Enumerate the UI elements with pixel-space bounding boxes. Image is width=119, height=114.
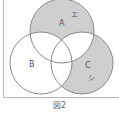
region-label-a-only: エ [71,11,78,19]
set-label-a: A [59,19,65,28]
figure-caption: 図2 [0,100,119,112]
region-label-c-only: シ [88,74,95,82]
venn-diagram: A エ B C シ [0,0,119,100]
set-label-b: B [29,60,35,69]
set-label-c: C [85,61,91,70]
